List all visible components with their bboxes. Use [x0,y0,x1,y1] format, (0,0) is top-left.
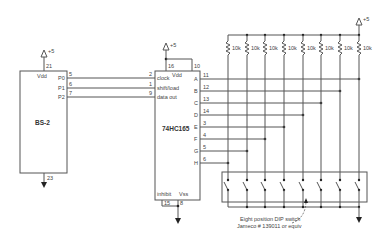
bs2-name: BS-2 [35,119,50,126]
bs2-pin-label: P2 [58,94,65,100]
ground-arrow-icon [175,218,181,224]
sr-output-label: H [194,160,198,166]
sr-input-label: shift/load [157,85,179,91]
svg-text:10k: 10k [363,45,372,51]
pullup-resistors: +5 10k 10k 10k 10k 10k 10k [226,16,372,172]
ground-arrow-icon [356,217,362,223]
svg-text:10k: 10k [307,45,316,51]
bs2-vdd-label: Vdd [37,73,47,79]
sr-input-num: 2 [149,71,152,77]
sr-supply-label: +5 [170,42,176,48]
supply-arrow-icon [41,50,47,57]
sr-vdd-label: Vdd [172,72,182,78]
data-wires [200,78,360,165]
sr-input-label: data out [157,94,177,100]
supply-arrow-icon [163,43,169,50]
sr-output-num: 11 [203,72,209,78]
svg-text:10k: 10k [251,45,260,51]
resistor: 10k [319,35,334,172]
sr-output-label: D [194,112,198,118]
sr-output-num: 3 [203,120,206,126]
sr-vdd-pin: 16 [168,63,174,69]
sr-input-num: 1 [149,81,152,87]
supply-arrow-icon [356,18,362,25]
schematic-diagram: +5 21 Vdd BS-2 P0 P1 P2 5 6 7 23 +5 16 1… [0,0,387,242]
sr-output-num: 14 [203,108,209,114]
sr-inhibit-label: inhibit [157,191,172,197]
svg-text:10k: 10k [288,45,297,51]
svg-text:10k: 10k [232,45,241,51]
resistor: 10k [338,35,353,172]
bs2-supply-label: +5 [48,48,54,54]
sr-output-num: 12 [203,84,209,90]
bs2-chip: +5 21 Vdd BS-2 P0 P1 P2 5 6 7 23 [20,48,72,188]
svg-text:10k: 10k [344,45,353,51]
svg-text:10k: 10k [325,45,334,51]
sr-name: 74HC165 [162,125,190,132]
ground-arrow-icon [41,182,47,188]
bs2-pin-num: 5 [69,71,72,77]
sr-pin10: 10 [194,63,200,69]
dip-note-line1: Eight position DIP switch [240,216,300,222]
svg-text:10k: 10k [269,45,278,51]
sr-output-label: C [194,100,198,106]
bs2-vdd-pin: 21 [46,63,52,69]
sr-output-label: G [194,148,198,154]
sr-output-num: 4 [203,132,206,138]
sr-input-num: 9 [149,90,152,96]
dip-note-line2: Jameco # 139011 or equiv [237,223,302,229]
sr-vss-pin: 8 [180,200,183,206]
sr-output-num: 5 [203,144,206,150]
sr-inhibit-pin: 15 [164,200,170,206]
rail-supply-label: +5 [363,16,369,22]
sr-input-label: clock [157,75,170,81]
sr-output-label: E [194,124,198,130]
sr-output-num: 6 [203,156,206,162]
sr-output-label: B [194,88,198,94]
resistor: 10k [357,35,372,172]
bs2-pin-num: 7 [69,90,72,96]
control-wires [67,78,155,97]
sr-vss-label: Vss [179,191,188,197]
dip-switch: Eight position DIP switch Jameco # 13901… [222,172,367,229]
bs2-pin-label: P1 [58,85,65,91]
sr-output-num: 13 [203,96,209,102]
sr-output-label: A [194,76,198,82]
74hc165-chip: +5 16 10 Vdd 74HC165 clock shift/load da… [149,42,209,224]
bs2-pin-label: P0 [58,75,65,81]
bs2-gnd-pin: 23 [47,175,53,181]
bs2-pin-num: 6 [69,81,72,87]
